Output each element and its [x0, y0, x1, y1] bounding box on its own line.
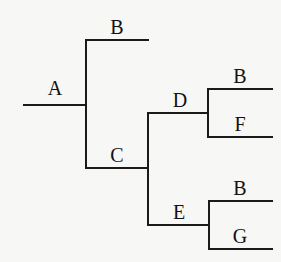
tree-diagram: A B C D B F E B G [0, 0, 281, 262]
label-d: D [173, 89, 187, 111]
label-a: A [48, 77, 63, 99]
label-e: E [173, 201, 185, 223]
label-b-top: B [110, 16, 123, 38]
label-b-e: B [233, 177, 246, 199]
label-f: F [234, 113, 245, 135]
label-c: C [110, 144, 123, 166]
label-g: G [233, 225, 247, 247]
label-b-d: B [233, 65, 246, 87]
